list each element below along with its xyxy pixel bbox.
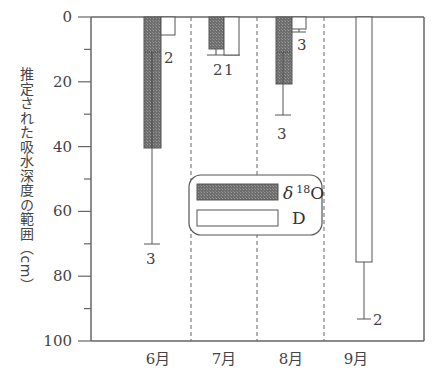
y-tick-20: 20 <box>53 73 72 91</box>
n-label-jun-d: 2 <box>164 49 174 67</box>
legend-swatch-d <box>197 210 278 226</box>
n-label-jul-d: 1 <box>224 61 234 79</box>
bar-chart: 0 20 40 60 80 100 2 3 2 1 <box>0 0 438 376</box>
y-axis-ticks <box>78 17 91 341</box>
bar-jun-d <box>161 17 175 35</box>
n-label-sep-d: 2 <box>373 311 383 329</box>
x-label-sep: 9月 <box>344 350 369 368</box>
x-label-aug: 8月 <box>279 350 304 368</box>
september-group: 2 <box>356 17 383 329</box>
n-label-aug-o18: 3 <box>277 125 287 143</box>
n-label-jun-o18: 3 <box>146 250 156 268</box>
bar-aug-o18 <box>276 17 292 84</box>
y-tick-80: 80 <box>53 267 72 285</box>
y-tick-100: 100 <box>43 332 72 350</box>
legend-label-d: D <box>292 208 306 228</box>
n-label-aug-d: 3 <box>297 36 307 54</box>
y-tick-40: 40 <box>53 138 72 156</box>
y-tick-0: 0 <box>62 8 72 26</box>
y-axis-tick-labels: 0 20 40 60 80 100 <box>43 8 72 350</box>
x-axis-labels: 6月 7月 8月 9月 <box>146 350 369 368</box>
august-group: 3 3 <box>275 17 307 143</box>
y-tick-60: 60 <box>53 202 72 220</box>
bar-sep-d <box>356 17 372 262</box>
june-group: 2 3 <box>144 17 175 268</box>
x-label-jul: 7月 <box>212 350 237 368</box>
bar-jul-d <box>224 17 239 55</box>
n-label-jul-o18: 2 <box>213 61 223 79</box>
bar-jul-o18 <box>209 17 224 49</box>
july-group: 2 1 <box>207 17 240 79</box>
legend: δ18O D <box>189 175 324 235</box>
x-label-jun: 6月 <box>146 350 171 368</box>
legend-swatch-o18 <box>197 184 278 200</box>
bar-aug-d <box>292 17 306 29</box>
